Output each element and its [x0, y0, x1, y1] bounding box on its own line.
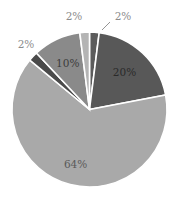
pie-label-4: 10% [56, 57, 79, 69]
pie-label-1: 20% [113, 66, 136, 78]
pie-label-5: 2% [66, 10, 83, 22]
pie-label-3: 2% [18, 38, 35, 50]
pie-leader-line-0 [102, 22, 110, 30]
pie-label-2: 64% [64, 158, 87, 170]
pie-slices [12, 32, 167, 187]
pie-chart: 2%20%64%2%10%2% [0, 0, 181, 204]
pie-label-0: 2% [115, 10, 132, 22]
